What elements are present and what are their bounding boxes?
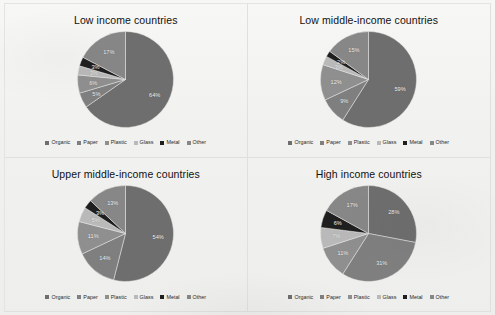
legend-swatch-icon (403, 295, 407, 299)
legend-label: Paper (83, 140, 97, 145)
legend-item-paper[interactable]: Paper (320, 295, 340, 300)
legend-item-organic[interactable]: Organic (45, 295, 70, 300)
legend-item-plastic[interactable]: Plastic (105, 295, 127, 300)
legend-swatch-icon (430, 295, 434, 299)
legend-item-organic[interactable]: Organic (288, 140, 313, 145)
legend-item-plastic[interactable]: Plastic (105, 140, 127, 145)
legend-item-organic[interactable]: Organic (288, 295, 313, 300)
legend-swatch-icon (320, 295, 324, 299)
figure-page: Low income countries 64%5%6%3%3%17% Orga… (0, 0, 495, 315)
legend-swatch-icon (430, 141, 434, 145)
legend-item-organic[interactable]: Organic (45, 140, 70, 145)
legend-label: Paper (326, 140, 340, 145)
legend-swatch-icon (320, 141, 324, 145)
legend-swatch-icon (348, 141, 352, 145)
legend-item-other[interactable]: Other (187, 295, 206, 300)
legend-label: Glass (140, 295, 154, 300)
legend-item-plastic[interactable]: Plastic (348, 140, 370, 145)
pie-slice-organic[interactable] (369, 185, 417, 242)
legend-swatch-icon (288, 295, 292, 299)
legend-label: Organic (294, 140, 313, 145)
chart-title: High income countries (248, 168, 491, 180)
legend-swatch-icon (105, 141, 109, 145)
legend-label: Other (436, 140, 449, 145)
legend-item-metal[interactable]: Metal (160, 140, 179, 145)
legend-item-plastic[interactable]: Plastic (348, 295, 370, 300)
legend-label: Plastic (111, 140, 127, 145)
legend-swatch-icon (134, 141, 138, 145)
legend-item-other[interactable]: Other (430, 295, 449, 300)
legend-swatch-icon (377, 141, 381, 145)
chart-legend: OrganicPaperPlasticGlassMetalOther (5, 140, 247, 145)
legend-label: Other (436, 295, 449, 300)
chart-title: Low middle-income countries (248, 14, 491, 26)
legend-swatch-icon (45, 141, 49, 145)
chart-panel-low-middle-income: Low middle-income countries 59%9%12%3%2%… (248, 3, 492, 158)
legend-label: Metal (409, 295, 422, 300)
legend-item-metal[interactable]: Metal (403, 140, 422, 145)
legend-item-glass[interactable]: Glass (377, 140, 397, 145)
legend-label: Glass (140, 140, 154, 145)
chart-legend: OrganicPaperPlasticGlassMetalOther (248, 140, 491, 145)
legend-swatch-icon (45, 295, 49, 299)
legend-label: Plastic (111, 295, 127, 300)
legend-label: Organic (51, 140, 70, 145)
legend-swatch-icon (105, 295, 109, 299)
chart-panel-upper-middle-income: Upper middle-income countries 54%14%11%5… (4, 158, 248, 313)
legend-swatch-icon (377, 295, 381, 299)
legend-swatch-icon (187, 295, 191, 299)
legend-swatch-icon (77, 295, 81, 299)
legend-label: Glass (383, 295, 397, 300)
pie-chart[interactable]: 59%9%12%3%2%15% (320, 31, 417, 128)
chart-legend: OrganicPaperPlasticGlassMetalOther (248, 295, 491, 300)
legend-label: Organic (294, 295, 313, 300)
legend-item-other[interactable]: Other (430, 140, 449, 145)
legend-label: Other (193, 140, 206, 145)
legend-item-paper[interactable]: Paper (77, 140, 97, 145)
legend-label: Plastic (354, 140, 370, 145)
legend-item-glass[interactable]: Glass (134, 140, 154, 145)
legend-label: Metal (166, 295, 179, 300)
legend-label: Glass (383, 140, 397, 145)
chart-legend: OrganicPaperPlasticGlassMetalOther (5, 295, 247, 300)
legend-item-paper[interactable]: Paper (77, 295, 97, 300)
pie-chart[interactable]: 54%14%11%5%3%13% (77, 185, 174, 282)
legend-swatch-icon (160, 141, 164, 145)
legend-label: Metal (166, 140, 179, 145)
pie-area: 59%9%12%3%2%15% (248, 31, 491, 129)
chart-panel-low-income: Low income countries 64%5%6%3%3%17% Orga… (4, 3, 248, 158)
legend-item-metal[interactable]: Metal (160, 295, 179, 300)
legend-swatch-icon (288, 141, 292, 145)
legend-label: Metal (409, 140, 422, 145)
legend-item-other[interactable]: Other (187, 140, 206, 145)
legend-swatch-icon (160, 295, 164, 299)
chart-panel-high-income: High income countries 28%31%11%7%6%17% O… (248, 158, 492, 313)
pie-area: 28%31%11%7%6%17% (248, 185, 491, 283)
pie-chart[interactable]: 64%5%6%3%3%17% (77, 31, 174, 128)
chart-title: Upper middle-income countries (5, 168, 247, 180)
pie-area: 64%5%6%3%3%17% (5, 31, 247, 129)
legend-item-paper[interactable]: Paper (320, 140, 340, 145)
pie-area: 54%14%11%5%3%13% (5, 185, 247, 283)
pie-svg (320, 185, 417, 282)
pie-svg (77, 185, 174, 282)
pie-svg (320, 31, 417, 128)
legend-label: Paper (83, 295, 97, 300)
legend-swatch-icon (134, 295, 138, 299)
legend-label: Paper (326, 295, 340, 300)
legend-swatch-icon (348, 295, 352, 299)
legend-swatch-icon (403, 141, 407, 145)
legend-swatch-icon (77, 141, 81, 145)
chart-grid: Low income countries 64%5%6%3%3%17% Orga… (4, 3, 491, 312)
legend-item-metal[interactable]: Metal (403, 295, 422, 300)
legend-swatch-icon (187, 141, 191, 145)
legend-item-glass[interactable]: Glass (134, 295, 154, 300)
chart-title: Low income countries (5, 14, 247, 26)
pie-svg (77, 31, 174, 128)
legend-label: Other (193, 295, 206, 300)
legend-item-glass[interactable]: Glass (377, 295, 397, 300)
legend-label: Plastic (354, 295, 370, 300)
legend-label: Organic (51, 295, 70, 300)
pie-chart[interactable]: 28%31%11%7%6%17% (320, 185, 417, 282)
